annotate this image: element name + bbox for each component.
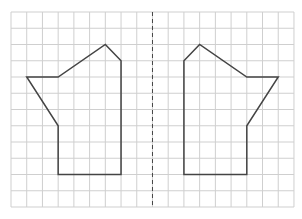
symmetry-figure [0, 0, 302, 219]
grid-canvas [0, 0, 302, 219]
